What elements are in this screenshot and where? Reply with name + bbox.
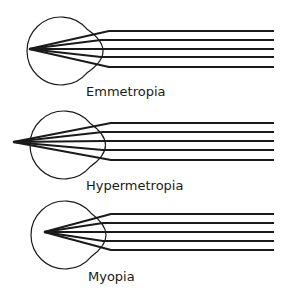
hypermetropia-panel	[13, 111, 274, 179]
light-ray	[44, 223, 274, 232]
emmetropia-panel	[27, 17, 274, 85]
emmetropia-label: Emmetropia	[86, 85, 165, 98]
light-ray	[44, 232, 274, 241]
refraction-diagram	[0, 0, 291, 294]
light-ray	[29, 49, 274, 67]
hypermetropia-label: Hypermetropia	[86, 179, 183, 192]
light-ray	[13, 141, 274, 142]
light-ray	[29, 49, 274, 57]
myopia-label: Myopia	[88, 270, 135, 283]
myopia-panel	[31, 201, 274, 269]
